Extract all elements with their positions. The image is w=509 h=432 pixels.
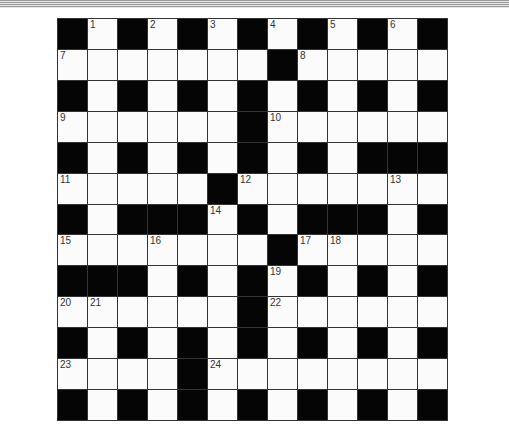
grid-cell[interactable]: 12 — [238, 174, 267, 204]
grid-cell[interactable] — [208, 390, 237, 420]
grid-cell[interactable] — [328, 174, 357, 204]
grid-cell[interactable]: 10 — [268, 112, 297, 142]
grid-cell[interactable] — [88, 50, 117, 80]
grid-cell[interactable] — [418, 297, 447, 327]
grid-cell[interactable] — [208, 235, 237, 265]
grid-cell[interactable]: 3 — [208, 19, 237, 49]
grid-cell[interactable] — [148, 50, 177, 80]
grid-cell[interactable]: 5 — [328, 19, 357, 49]
grid-cell[interactable] — [88, 328, 117, 358]
grid-cell[interactable] — [88, 359, 117, 389]
grid-cell[interactable] — [148, 112, 177, 142]
grid-cell[interactable]: 24 — [208, 359, 237, 389]
grid-cell[interactable] — [208, 50, 237, 80]
grid-cell[interactable] — [118, 359, 147, 389]
grid-cell[interactable] — [298, 112, 327, 142]
grid-cell[interactable] — [358, 174, 387, 204]
grid-cell[interactable] — [388, 328, 417, 358]
grid-cell[interactable] — [148, 174, 177, 204]
grid-cell[interactable]: 14 — [208, 205, 237, 235]
grid-cell[interactable] — [388, 297, 417, 327]
grid-cell[interactable] — [388, 266, 417, 296]
grid-cell[interactable] — [88, 143, 117, 173]
grid-cell[interactable]: 15 — [58, 235, 87, 265]
grid-cell[interactable] — [208, 81, 237, 111]
grid-cell[interactable] — [178, 50, 207, 80]
grid-cell[interactable] — [148, 328, 177, 358]
grid-cell[interactable] — [148, 297, 177, 327]
grid-cell[interactable] — [328, 143, 357, 173]
grid-cell[interactable] — [298, 174, 327, 204]
grid-cell[interactable] — [118, 297, 147, 327]
grid-cell[interactable] — [178, 297, 207, 327]
grid-cell[interactable] — [418, 235, 447, 265]
grid-cell[interactable] — [238, 359, 267, 389]
grid-cell[interactable]: 1 — [88, 19, 117, 49]
grid-cell[interactable] — [268, 328, 297, 358]
grid-cell[interactable] — [178, 235, 207, 265]
grid-cell[interactable]: 2 — [148, 19, 177, 49]
grid-cell[interactable] — [208, 143, 237, 173]
grid-cell[interactable] — [328, 297, 357, 327]
grid-cell[interactable] — [268, 81, 297, 111]
grid-cell[interactable] — [148, 143, 177, 173]
grid-cell[interactable] — [148, 390, 177, 420]
grid-cell[interactable] — [328, 50, 357, 80]
grid-cell[interactable]: 16 — [148, 235, 177, 265]
grid-cell[interactable] — [358, 359, 387, 389]
grid-cell[interactable]: 19 — [268, 266, 297, 296]
grid-cell[interactable] — [358, 297, 387, 327]
grid-cell[interactable] — [358, 50, 387, 80]
grid-cell[interactable] — [388, 235, 417, 265]
grid-cell[interactable] — [418, 174, 447, 204]
grid-cell[interactable] — [148, 266, 177, 296]
grid-cell[interactable] — [238, 50, 267, 80]
grid-cell[interactable] — [208, 328, 237, 358]
grid-cell[interactable] — [418, 112, 447, 142]
grid-cell[interactable] — [358, 112, 387, 142]
grid-cell[interactable] — [238, 235, 267, 265]
grid-cell[interactable] — [388, 390, 417, 420]
grid-cell[interactable] — [88, 112, 117, 142]
grid-cell[interactable]: 18 — [328, 235, 357, 265]
grid-cell[interactable] — [388, 81, 417, 111]
grid-cell[interactable]: 13 — [388, 174, 417, 204]
grid-cell[interactable] — [88, 205, 117, 235]
grid-cell[interactable]: 17 — [298, 235, 327, 265]
grid-cell[interactable]: 23 — [58, 359, 87, 389]
grid-cell[interactable] — [268, 174, 297, 204]
grid-cell[interactable] — [178, 174, 207, 204]
grid-cell[interactable] — [148, 359, 177, 389]
grid-cell[interactable] — [88, 235, 117, 265]
grid-cell[interactable]: 9 — [58, 112, 87, 142]
grid-cell[interactable] — [328, 266, 357, 296]
grid-cell[interactable] — [388, 359, 417, 389]
grid-cell[interactable] — [88, 81, 117, 111]
grid-cell[interactable] — [328, 81, 357, 111]
grid-cell[interactable] — [328, 359, 357, 389]
grid-cell[interactable] — [388, 50, 417, 80]
grid-cell[interactable] — [118, 235, 147, 265]
grid-cell[interactable]: 21 — [88, 297, 117, 327]
grid-cell[interactable] — [268, 143, 297, 173]
grid-cell[interactable] — [208, 297, 237, 327]
grid-cell[interactable] — [178, 112, 207, 142]
grid-cell[interactable] — [418, 359, 447, 389]
grid-cell[interactable]: 4 — [268, 19, 297, 49]
grid-cell[interactable] — [298, 359, 327, 389]
grid-cell[interactable]: 20 — [58, 297, 87, 327]
grid-cell[interactable] — [118, 174, 147, 204]
grid-cell[interactable]: 11 — [58, 174, 87, 204]
grid-cell[interactable] — [118, 50, 147, 80]
grid-cell[interactable]: 7 — [58, 50, 87, 80]
grid-cell[interactable] — [148, 81, 177, 111]
grid-cell[interactable]: 6 — [388, 19, 417, 49]
grid-cell[interactable] — [208, 266, 237, 296]
grid-cell[interactable] — [88, 390, 117, 420]
grid-cell[interactable]: 8 — [298, 50, 327, 80]
grid-cell[interactable] — [208, 112, 237, 142]
grid-cell[interactable] — [328, 112, 357, 142]
grid-cell[interactable] — [268, 205, 297, 235]
grid-cell[interactable] — [88, 174, 117, 204]
grid-cell[interactable] — [358, 235, 387, 265]
